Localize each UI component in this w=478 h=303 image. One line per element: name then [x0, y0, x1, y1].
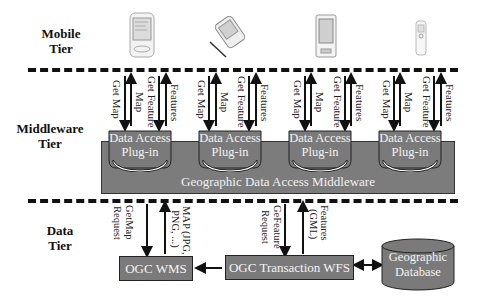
getmap-request-line2: Request: [112, 206, 123, 240]
features-gml-line1: Features: [319, 205, 330, 241]
getmap-request-line1: GetMap: [124, 205, 135, 239]
get-map-label: Get Map: [111, 80, 122, 119]
plugin-label-line2: Plug-in: [288, 145, 352, 159]
features-label: Features: [444, 84, 455, 121]
plugin-label: Data Access Plug-in: [108, 131, 172, 159]
features-label: Features: [354, 84, 365, 121]
get-feature-label: Get Feature: [332, 76, 343, 128]
plugin-label: Data Access Plug-in: [378, 131, 442, 159]
get-map-label: Get Map: [196, 80, 207, 119]
plugin-label: Data Access Plug-in: [198, 131, 262, 159]
get-map-label: Get Map: [292, 80, 303, 119]
map-response-line2: PNG, ...): [170, 210, 181, 248]
plugin-label-line1: Data Access: [378, 131, 442, 145]
get-feature-label: Get Feature: [421, 76, 432, 128]
plugin-label-line2: Plug-in: [198, 145, 262, 159]
plugin-label-line1: Data Access: [108, 131, 172, 145]
get-feature-label: Get Feature: [236, 76, 247, 128]
map-label: Map: [219, 92, 230, 112]
get-feature-label: Get Feature: [146, 76, 157, 128]
ogc-wms-box: OGC WMS: [119, 256, 193, 281]
data-access-plugin-3: Data Access Plug-in: [288, 130, 352, 172]
data-access-plugin-4: Data Access Plug-in: [378, 130, 442, 172]
middleware-label: Geographic Data Access Middleware: [102, 174, 454, 190]
data-access-plugin-1: Data Access Plug-in: [108, 130, 172, 172]
getfeature-request-line2: Request: [260, 210, 271, 244]
getfeature-request-line1: GeFeature: [272, 205, 283, 249]
features-label: Features: [259, 84, 270, 121]
features-gml-line2: (GML): [308, 209, 319, 239]
get-map-label: Get Map: [381, 80, 392, 119]
geographic-database-label: Geographic Database: [380, 250, 456, 280]
map-response-line1: MAP (JPG,: [181, 206, 192, 255]
plugin-label-line2: Plug-in: [108, 145, 172, 159]
database-label-line1: Geographic: [380, 250, 456, 265]
plugin-label-line1: Data Access: [288, 131, 352, 145]
map-label: Map: [134, 92, 145, 112]
database-label-line2: Database: [380, 265, 456, 280]
plugin-label-line1: Data Access: [198, 131, 262, 145]
plugin-label-line2: Plug-in: [378, 145, 442, 159]
map-label: Map: [314, 92, 325, 112]
data-access-plugin-2: Data Access Plug-in: [198, 130, 262, 172]
map-label: Map: [403, 92, 414, 112]
getmap-request-label: GetMap: [124, 205, 135, 239]
ogc-transaction-wfs-box: OGC Transaction WFS: [225, 255, 354, 280]
plugin-label: Data Access Plug-in: [288, 131, 352, 159]
features-label: Features: [169, 84, 180, 121]
